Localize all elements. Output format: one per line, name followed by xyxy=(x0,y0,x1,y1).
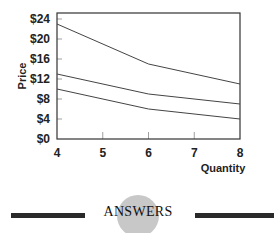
y-tick-label: $20 xyxy=(30,32,50,46)
x-tick-label: 8 xyxy=(237,146,244,160)
plot-frame xyxy=(57,13,240,139)
x-axis-title: Quantity xyxy=(201,162,246,174)
data-line xyxy=(57,24,240,84)
x-tick-label: 5 xyxy=(99,146,106,160)
x-tick-label: 4 xyxy=(54,146,61,160)
x-tick-label: 6 xyxy=(145,146,152,160)
y-tick-label: $24 xyxy=(30,12,50,26)
line-chart: $0$4$8$12$16$20$24 45678 Price Quantity xyxy=(0,0,274,190)
y-tick-label: $12 xyxy=(30,72,50,86)
y-tick-label: $0 xyxy=(37,132,51,146)
left-divider-bar xyxy=(11,213,85,218)
right-divider-bar xyxy=(195,213,274,218)
y-axis-title: Price xyxy=(16,63,28,90)
y-tick-label: $16 xyxy=(30,52,50,66)
answers-heading: ANSWERS xyxy=(90,204,186,220)
x-tick-label: 7 xyxy=(191,146,198,160)
y-tick-label: $4 xyxy=(37,112,51,126)
y-tick-label: $8 xyxy=(37,92,51,106)
